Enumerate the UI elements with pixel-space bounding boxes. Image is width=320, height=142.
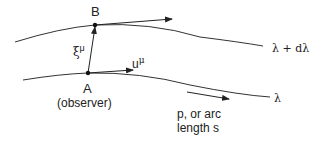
- geodesic-diagram: [0, 0, 320, 142]
- xi-label: ξμ: [73, 42, 85, 59]
- point-a-label: A: [83, 82, 92, 95]
- parameter-label-line2: length s: [177, 122, 219, 135]
- point-a: [86, 71, 90, 75]
- parameter-direction-arrow: [187, 92, 229, 99]
- point-b-label: B: [91, 5, 100, 18]
- point-b: [93, 23, 97, 27]
- velocity-vector: [88, 70, 133, 73]
- observer-label: (observer): [57, 97, 112, 110]
- upper-curve-label: λ + dλ: [272, 42, 309, 55]
- upper-geodesic: [15, 25, 263, 47]
- lower-curve-label: λ: [274, 92, 281, 105]
- u-label: uμ: [132, 54, 145, 71]
- parameter-label-line1: p, or arc: [177, 108, 221, 121]
- tangent-vector-b: [95, 19, 172, 25]
- lower-geodesic: [23, 73, 270, 97]
- separation-vector: [88, 27, 95, 73]
